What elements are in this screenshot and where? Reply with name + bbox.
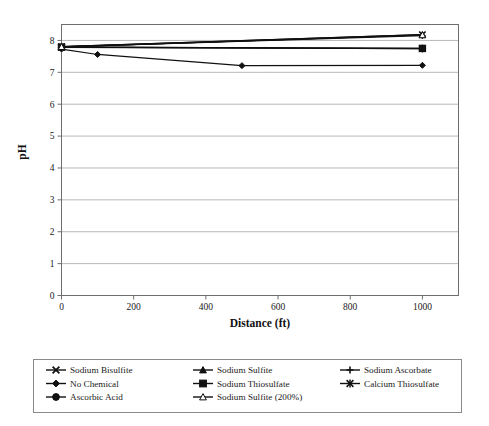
x-tick-label-600: 600 [271,302,286,312]
x-tick-label-400: 400 [199,302,214,312]
legend-label: Sodium Ascorbate [364,365,432,375]
x-tick-label-800: 800 [343,302,358,312]
x-axis-title: Distance (ft) [230,317,291,330]
y-tick-label-4: 4 [50,163,55,173]
legend-label: Sodium Thiosulfate [217,379,290,389]
datapoint-circle-marker [419,46,425,52]
x-tick-label-1000: 1000 [413,302,432,312]
y-tick-label-5: 5 [50,131,55,141]
legend-label: Sodium Sulfite [217,365,272,375]
legend-label: Sodium Sulfite (200%) [217,392,302,402]
legend-label: Sodium Bisulfite [70,365,133,375]
y-tick-label-2: 2 [50,227,55,237]
chart-container: 012345678 02004006008001000 pH Distance … [0,0,489,426]
legend-label: Ascorbic Acid [70,392,123,402]
chart-background [0,0,489,426]
y-axis-tick-labels: 012345678 [50,36,55,301]
legend-circle-marker [53,394,60,401]
x-tick-label-0: 0 [59,302,64,312]
y-tick-label-3: 3 [50,195,55,205]
legend-square-marker [200,380,207,387]
y-axis-title: pH [16,144,29,159]
y-tick-label-7: 7 [50,68,55,78]
y-tick-label-6: 6 [50,100,55,110]
legend-label: No Chemical [70,379,119,389]
x-tick-label-200: 200 [127,302,142,312]
y-tick-label-1: 1 [50,259,55,269]
y-tick-label-0: 0 [50,291,55,301]
y-tick-label-8: 8 [50,36,55,46]
legend-label: Calcium Thiosulfate [364,379,439,389]
ph-vs-distance-line-chart: 012345678 02004006008001000 pH Distance … [0,0,489,426]
